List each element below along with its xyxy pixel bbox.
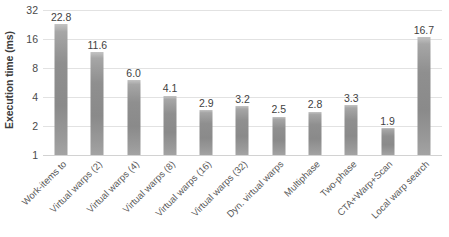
y-axis-title-text: Execution time (ms) xyxy=(3,31,15,129)
bar-value-label: 22.8 xyxy=(51,12,71,23)
bar-slot: 22.8 xyxy=(43,10,79,155)
bar-value-label: 4.1 xyxy=(163,83,178,94)
y-tick-label: 4 xyxy=(12,92,38,103)
bar-slot: 16.7 xyxy=(406,10,442,155)
bar-value-label: 11.6 xyxy=(88,40,108,51)
bar[interactable] xyxy=(200,110,213,155)
bar[interactable] xyxy=(272,117,285,155)
bar-value-label: 1.9 xyxy=(380,116,395,127)
bar[interactable] xyxy=(55,24,68,155)
bar[interactable] xyxy=(381,128,394,155)
bar-chart-figure: Execution time (ms) 12481632 22.811.66.0… xyxy=(0,0,449,237)
bar-slot: 1.9 xyxy=(369,10,405,155)
bar[interactable] xyxy=(91,52,104,155)
bar[interactable] xyxy=(127,80,140,155)
bar[interactable] xyxy=(417,37,430,155)
bar-slot: 3.2 xyxy=(224,10,260,155)
bar-value-label: 2.8 xyxy=(308,99,323,110)
bar-value-label: 2.9 xyxy=(199,98,214,109)
bar-value-label: 6.0 xyxy=(126,68,141,79)
bar-value-label: 3.3 xyxy=(344,93,359,104)
y-tick-label: 8 xyxy=(12,63,38,74)
bar[interactable] xyxy=(236,106,249,155)
y-tick-label: 16 xyxy=(12,34,38,45)
x-axis-tick-labels: Work-items toVirtual warps (2)Virtual wa… xyxy=(43,155,442,237)
bar[interactable] xyxy=(309,112,322,155)
bar-slot: 3.3 xyxy=(333,10,369,155)
bar-slot: 4.1 xyxy=(152,10,188,155)
y-tick-label: 2 xyxy=(12,121,38,132)
plot-area: 22.811.66.04.12.93.22.52.83.31.916.7 xyxy=(43,10,442,155)
bar-slot: 2.9 xyxy=(188,10,224,155)
bar-slot: 11.6 xyxy=(79,10,115,155)
y-axis-title: Execution time (ms) xyxy=(0,0,18,160)
bar-slot: 2.8 xyxy=(297,10,333,155)
bar-value-label: 3.2 xyxy=(235,94,250,105)
bar-value-label: 2.5 xyxy=(271,104,286,115)
y-tick-label: 1 xyxy=(12,150,38,161)
y-tick-label: 32 xyxy=(12,5,38,16)
bar[interactable] xyxy=(163,96,176,155)
x-tick-slot: Local warp search xyxy=(406,155,442,237)
bar-slot: 6.0 xyxy=(116,10,152,155)
bar-value-label: 16.7 xyxy=(414,25,434,36)
bar-slot: 2.5 xyxy=(261,10,297,155)
bar[interactable] xyxy=(345,105,358,155)
